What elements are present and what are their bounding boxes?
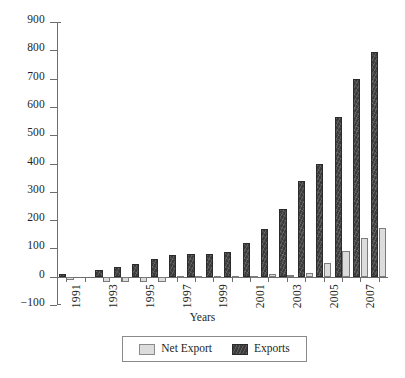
bar-net-export (177, 276, 184, 278)
bar-net-export (269, 274, 276, 276)
x-tick-label: 2001 (255, 284, 267, 308)
x-tick-mark (342, 277, 343, 282)
bar-group (112, 22, 130, 305)
bar-net-export (122, 277, 129, 283)
x-tick-mark (121, 277, 122, 282)
x-tick-mark (158, 277, 159, 282)
bar-net-export (342, 251, 349, 277)
bar-exports (151, 259, 158, 276)
y-tick-mark (50, 79, 57, 80)
bar-group (259, 22, 277, 305)
x-tick-mark (268, 277, 269, 282)
y-tick-mark (50, 22, 57, 23)
x-tick-mark (85, 277, 86, 282)
y-tick-mark (50, 277, 57, 278)
bar-net-export (306, 273, 313, 276)
bar-net-export (250, 276, 257, 278)
bar-group (223, 22, 241, 305)
bar-exports (371, 52, 378, 277)
x-tick-label: 2007 (365, 284, 377, 308)
bar-net-export (324, 263, 331, 277)
y-tick-label: 800 (27, 42, 45, 54)
y-tick-mark (50, 50, 57, 51)
bar-group (204, 22, 222, 305)
bar-group (314, 22, 332, 305)
x-tick-mark (232, 277, 233, 282)
bar-exports (169, 255, 176, 277)
legend-label-net-export: Net Export (161, 343, 212, 355)
y-tick-mark (50, 220, 57, 221)
bar-group (351, 22, 369, 305)
x-tick-mark (195, 277, 196, 282)
y-tick-label: 100 (27, 240, 45, 252)
bar-exports (261, 229, 268, 277)
x-tick-mark (103, 277, 104, 282)
bar-exports (114, 267, 121, 277)
bar-exports (224, 252, 231, 277)
x-tick-mark (250, 277, 251, 282)
x-tick-label: 1991 (71, 284, 83, 308)
bar-exports (59, 274, 66, 277)
x-tick-label: 2003 (292, 284, 304, 308)
x-tick-label: 1995 (145, 284, 157, 308)
chart-legend: Net Export Exports (122, 336, 307, 362)
y-tick-mark (50, 135, 57, 136)
x-tick-mark (140, 277, 141, 282)
x-tick-label: 1997 (182, 284, 194, 308)
y-tick-mark (50, 248, 57, 249)
bar-net-export (140, 277, 147, 282)
bar-exports (279, 209, 286, 277)
bar-group (131, 22, 149, 305)
legend-swatch-exports (232, 344, 248, 355)
x-tick-mark (305, 277, 306, 282)
bar-net-export (158, 277, 165, 282)
bar-group (149, 22, 167, 305)
x-tick-mark (379, 277, 380, 282)
legend-swatch-net-export (139, 344, 155, 355)
x-tick-mark (287, 277, 288, 282)
bar-group (57, 22, 75, 305)
bar-net-export (195, 276, 202, 278)
bar-exports (132, 264, 139, 277)
y-tick-mark (50, 192, 57, 193)
legend-label-exports: Exports (254, 343, 290, 355)
bar-group (296, 22, 314, 305)
bar-chart-figure: 9008007006005004003002001000−100 1991199… (0, 0, 405, 378)
bar-net-export (103, 277, 110, 282)
bar-group (241, 22, 259, 305)
y-tick-label: 700 (27, 71, 45, 83)
bar-exports (316, 164, 323, 277)
y-tick-mark (50, 107, 57, 108)
bar-exports (206, 254, 213, 277)
x-tick-label: 1999 (218, 284, 230, 308)
bar-group (75, 22, 93, 305)
bar-exports (187, 254, 194, 277)
y-tick-label: 600 (27, 99, 45, 111)
y-tick-label: 300 (27, 184, 45, 196)
x-tick-mark (213, 277, 214, 282)
bar-exports (353, 79, 360, 276)
bar-net-export (66, 277, 73, 280)
bar-group (370, 22, 388, 305)
bar-net-export (287, 275, 294, 277)
bar-net-export (232, 276, 239, 278)
y-tick-mark (50, 305, 57, 306)
x-tick-mark (177, 277, 178, 282)
y-tick-label: 0 (39, 269, 45, 281)
bar-exports (335, 117, 342, 277)
legend-entry-net-export: Net Export (139, 343, 212, 355)
bar-net-export (379, 228, 386, 277)
bar-net-export (214, 276, 221, 278)
y-tick-mark (50, 164, 57, 165)
y-tick-label: 900 (27, 14, 45, 26)
bar-exports (243, 243, 250, 277)
x-tick-mark (324, 277, 325, 282)
x-tick-label: 1993 (108, 284, 120, 308)
y-tick-label: −100 (20, 297, 45, 309)
bar-exports (95, 270, 102, 277)
y-tick-label: 400 (27, 156, 45, 168)
bar-net-export (361, 238, 368, 276)
legend-entry-exports: Exports (232, 343, 290, 355)
x-tick-mark (66, 277, 67, 282)
x-axis-title: Years (0, 311, 405, 323)
